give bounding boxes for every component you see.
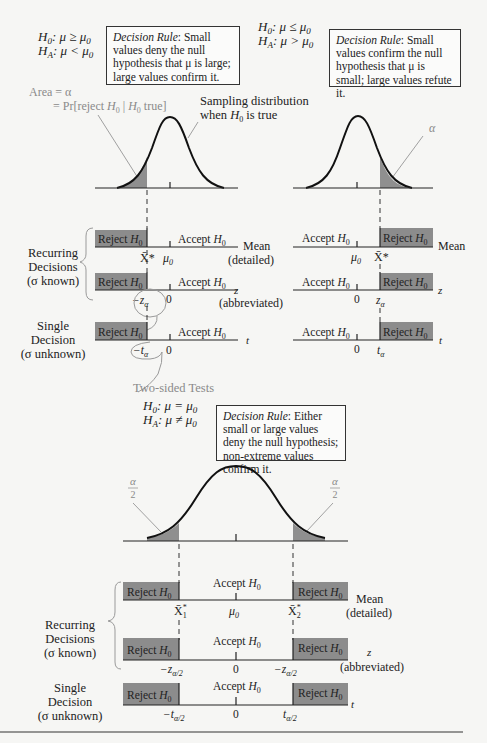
mean-axis-label: Mean bbox=[356, 592, 383, 606]
right-decision-rows: Reject H0 Accept H0 μ0 X̄* Mean Reject H… bbox=[293, 228, 465, 359]
alpha-label: α bbox=[429, 121, 436, 135]
accept-label: Accept H0 bbox=[178, 233, 226, 248]
accept-label: Accept H0 bbox=[213, 577, 261, 592]
cutoff-xbar-star: X̄* bbox=[374, 250, 389, 264]
normal-curve bbox=[306, 116, 412, 188]
zero-label: 0 bbox=[233, 708, 239, 720]
xbar1-star-label: X̄*1 bbox=[174, 603, 187, 620]
mean-axis-label: Mean bbox=[243, 239, 270, 253]
recurring-label-1: Recurring bbox=[45, 618, 96, 632]
single-label-3: (σ unknown) bbox=[21, 347, 86, 361]
accept-label: Accept H0 bbox=[178, 276, 226, 291]
t-alpha-label: tα bbox=[377, 344, 385, 359]
zero-label: 0 bbox=[354, 293, 360, 305]
zero-label: 0 bbox=[233, 663, 239, 675]
curve-label-2: when H0 is true bbox=[200, 108, 278, 124]
row-labels-one-sided: Recurring Decisions (σ known) Single Dec… bbox=[21, 246, 86, 361]
zero-label: 0 bbox=[354, 343, 360, 355]
accept-label: Accept H0 bbox=[178, 326, 226, 341]
z-alpha-label: zα bbox=[375, 294, 385, 309]
mean-axis-note: (detailed) bbox=[228, 253, 274, 267]
t-axis-label: t bbox=[246, 334, 250, 346]
hypotheses-right: H0: μ ≤ μ0 HA: μ > μ0 bbox=[257, 19, 314, 50]
neg-t-alpha-half: −tα/2 bbox=[163, 708, 184, 723]
single-label-1: Single bbox=[37, 319, 69, 333]
hypothesis-test-diagram: .ln { stroke:#222; stroke-width:1.2; fil… bbox=[0, 0, 487, 743]
alpha-leader-line bbox=[392, 136, 423, 178]
recurring-brace bbox=[108, 582, 121, 669]
ha-left: HA: μ < μ0 bbox=[37, 43, 94, 60]
zero-label: 0 bbox=[166, 344, 172, 356]
accept-label: Accept H0 bbox=[302, 326, 350, 341]
z-axis-note: (abbreviated) bbox=[219, 296, 283, 310]
accept-label: Accept H0 bbox=[302, 232, 350, 247]
two-sided-section: Two-sided Tests H0: μ = μ0 HA: μ ≠ μ0 α … bbox=[38, 381, 404, 723]
mu0-label: μ0 bbox=[162, 251, 173, 267]
recurring-brace bbox=[80, 228, 93, 300]
normal-curve bbox=[117, 117, 224, 188]
single-label-1: Single bbox=[54, 681, 86, 695]
single-label-3: (σ unknown) bbox=[38, 709, 103, 723]
single-label-2: Decision bbox=[31, 333, 76, 347]
rejection-area-left bbox=[117, 157, 147, 188]
accept-label: Accept H0 bbox=[213, 635, 261, 650]
t-axis-label: t bbox=[439, 334, 443, 346]
area-label: Area = α bbox=[29, 85, 72, 99]
hypotheses-left: H0: μ ≥ μ0 HA: μ < μ0 bbox=[37, 29, 94, 60]
ha-right: HA: μ > μ0 bbox=[257, 33, 314, 50]
z-axis-label: z bbox=[366, 646, 372, 658]
mu0-label: μ0 bbox=[350, 250, 361, 266]
zero-label: 0 bbox=[166, 293, 172, 305]
z-axis-label: z bbox=[233, 284, 239, 296]
normal-curve bbox=[147, 466, 325, 538]
recurring-label-2: Decisions bbox=[28, 260, 77, 274]
alpha-half-leader-left bbox=[133, 503, 161, 532]
accept-label: Accept H0 bbox=[213, 680, 261, 695]
area-leader-line bbox=[98, 115, 138, 178]
t-axis-label: t bbox=[351, 698, 355, 710]
neg-z-alpha-half-left: −zα/2 bbox=[160, 663, 183, 678]
mean-axis-label: Mean bbox=[438, 239, 465, 253]
ha-two-sided: HA: μ ≠ μ0 bbox=[142, 412, 197, 429]
z-axis-note: (abbreviated) bbox=[340, 660, 404, 674]
z-axis-label: z bbox=[437, 284, 443, 296]
alpha-half-left-den: 2 bbox=[131, 489, 136, 500]
alpha-half-leader-right bbox=[306, 503, 333, 532]
mu0-label: μ0 bbox=[228, 604, 239, 620]
left-tail-distribution: Area = α = Pr[reject H0 | H0 true] Sampl… bbox=[29, 85, 309, 228]
area-probability-label: = Pr[reject H0 | H0 true] bbox=[53, 99, 166, 115]
recurring-label-3: (σ known) bbox=[27, 274, 79, 288]
mean-axis-note: (detailed) bbox=[346, 606, 392, 620]
xbar2-star-label: X̄*2 bbox=[288, 603, 301, 620]
curve-leader-line bbox=[188, 122, 198, 138]
alpha-half-right-num: α bbox=[332, 475, 338, 487]
t-alpha-half: tα/2 bbox=[283, 708, 297, 723]
left-decision-rows: Reject H0 Accept H0 X̄* μ0 Mean (detaile… bbox=[80, 228, 283, 392]
recurring-label-1: Recurring bbox=[28, 246, 79, 260]
two-sided-heading: Two-sided Tests bbox=[133, 381, 214, 395]
curve-label-1: Sampling distribution bbox=[200, 94, 309, 108]
accept-label: Accept H0 bbox=[302, 276, 350, 291]
neg-z-alpha-half-right: −zα/2 bbox=[274, 663, 297, 678]
handwritten-stroke bbox=[147, 316, 157, 330]
rejection-area-right bbox=[380, 157, 410, 188]
recurring-label-3: (σ known) bbox=[44, 646, 96, 660]
alpha-half-right-den: 2 bbox=[333, 489, 338, 500]
alpha-half-left-num: α bbox=[130, 475, 136, 487]
recurring-label-2: Decisions bbox=[45, 632, 94, 646]
single-label-2: Decision bbox=[48, 695, 93, 709]
right-tail-distribution: α bbox=[293, 116, 436, 228]
